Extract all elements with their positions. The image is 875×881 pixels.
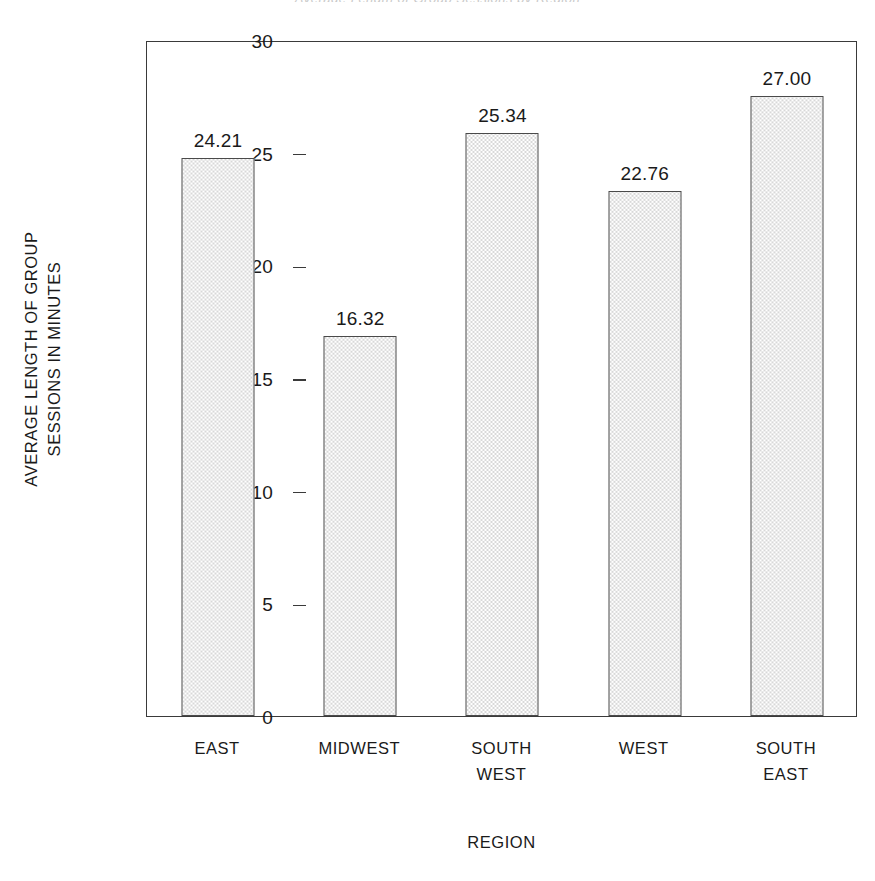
bar-value-label: 22.76 [620,163,669,185]
x-axis-title: REGION [146,833,857,852]
bar[interactable]: 25.34 [466,133,539,716]
bar-value-label: 24.21 [194,130,243,152]
clipped-header-text: Average Length of Group Sessions by Regi… [0,0,875,2]
bar-slot: 27.00 [716,42,858,716]
bar-slot: 22.76 [574,42,716,716]
bar-value-label: 27.00 [763,68,812,90]
bar[interactable]: 24.21 [182,158,255,716]
bar-rect[interactable]: 22.76 [608,191,681,716]
bar-slot: 16.32 [289,42,431,716]
bar-rect[interactable]: 16.32 [324,336,397,716]
y-axis-title: AVERAGE LENGTH OF GROUP SESSIONS IN MINU… [20,79,66,639]
bar-slot: 25.34 [431,42,573,716]
x-axis-tick-label: EAST [146,735,288,761]
x-axis-tick-label: SOUTH EAST [715,735,857,787]
x-axis-tick-label: WEST [573,735,715,761]
bar-rect[interactable]: 27.00 [750,96,823,716]
bar-rect[interactable]: 25.34 [466,133,539,716]
bar-chart: Average Length of Group Sessions by Regi… [0,0,875,881]
bar-value-label: 25.34 [478,105,527,127]
x-axis-tick-label: MIDWEST [288,735,430,761]
bar[interactable]: 16.32 [324,336,397,716]
plot-area: 051015202530 24.2116.3225.3422.7627.00 [146,41,857,717]
bar-rect[interactable]: 24.21 [182,158,255,716]
bar[interactable]: 22.76 [608,191,681,716]
bar-value-label: 16.32 [336,308,385,330]
bar[interactable]: 27.00 [750,96,823,716]
bar-slot: 24.21 [147,42,289,716]
x-axis-tick-label: SOUTH WEST [430,735,572,787]
